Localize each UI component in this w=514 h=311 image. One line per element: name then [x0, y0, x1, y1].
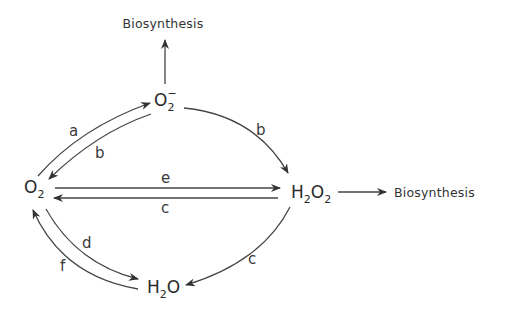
node-superoxide: O2−: [154, 87, 177, 114]
arrow-a-oxygen-to-superoxide: [38, 103, 150, 176]
label-b-right: b: [256, 121, 266, 139]
biosynthesis-top-label: Biosynthesis: [123, 16, 204, 31]
arrow-c-peroxide-to-water: [186, 207, 290, 285]
node-hydrogen-peroxide: H2O2: [291, 182, 331, 206]
arrow-b-superoxide-to-peroxide: [184, 108, 288, 173]
node-oxygen: O2: [24, 177, 44, 201]
label-e: e: [161, 169, 170, 187]
biosynthesis-right-label: Biosynthesis: [394, 185, 475, 200]
label-c-lower: c: [248, 250, 256, 268]
label-c-mid: c: [161, 199, 169, 217]
label-d: d: [82, 234, 92, 252]
oxygen-reaction-diagram: Biosynthesis O2− O2 H2O2 H2O Biosynthesi…: [0, 0, 514, 311]
label-b-upper: b: [95, 144, 105, 162]
label-f: f: [60, 257, 66, 275]
label-a: a: [69, 122, 78, 140]
node-water: H2O: [147, 277, 180, 301]
